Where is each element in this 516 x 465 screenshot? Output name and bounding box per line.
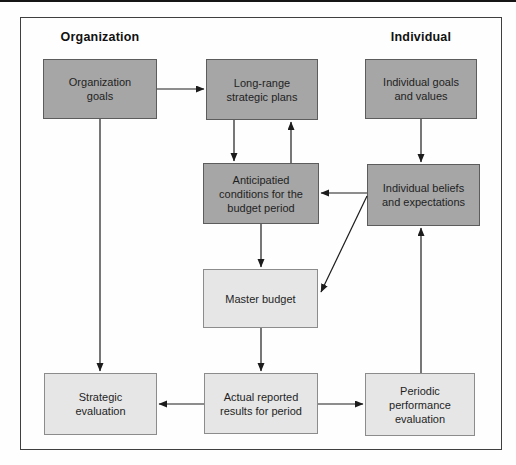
node-master-budget: Master budget [203, 269, 318, 328]
node-strategic-evaluation-label: Strategic evaluation [75, 390, 125, 418]
node-individual-goals-and-values-label: Individual goals and values [383, 75, 459, 103]
page-edge-rule [0, 0, 516, 2]
node-organization-goals: Organization goals [43, 59, 157, 119]
node-long-range-strategic-plans-label: Long-range strategic plans [227, 76, 298, 104]
node-strategic-evaluation: Strategic evaluation [44, 373, 157, 435]
node-master-budget-label: Master budget [225, 292, 295, 306]
node-individual-beliefs: Individual beliefs and expectations [367, 164, 480, 226]
node-individual-goals-and-values: Individual goals and values [365, 59, 477, 119]
column-header-individual: Individual [365, 30, 477, 44]
node-actual-reported-results: Actual reported results for period [204, 373, 318, 434]
node-anticipated-conditions: Anticipatied conditions for the budget p… [203, 163, 319, 224]
node-individual-beliefs-label: Individual beliefs and expectations [382, 181, 465, 209]
node-anticipated-conditions-label: Anticipatied conditions for the budget p… [219, 173, 303, 215]
node-long-range-strategic-plans: Long-range strategic plans [206, 59, 318, 120]
node-periodic-performance-evaluation-label: Periodic performance evaluation [389, 384, 451, 426]
node-organization-goals-label: Organization goals [69, 75, 131, 103]
column-header-organization: Organization [43, 30, 157, 44]
node-actual-reported-results-label: Actual reported results for period [220, 390, 302, 418]
node-periodic-performance-evaluation: Periodic performance evaluation [365, 373, 475, 436]
